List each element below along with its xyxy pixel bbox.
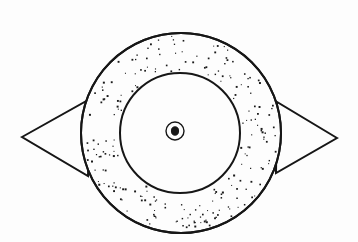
right-triangle	[276, 102, 337, 173]
left-triangle	[22, 99, 90, 176]
figure-canvas	[0, 0, 358, 242]
center-dot	[171, 127, 178, 135]
figure-drawing	[0, 0, 358, 242]
